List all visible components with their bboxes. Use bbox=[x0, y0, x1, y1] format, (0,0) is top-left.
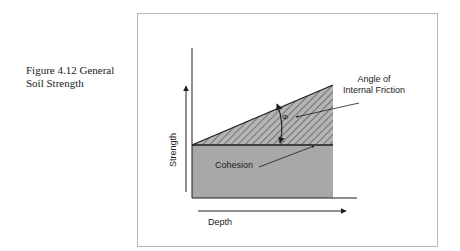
cohesion-label: Cohesion bbox=[215, 160, 253, 170]
friction-label-line-1: Angle of bbox=[357, 74, 391, 84]
friction-label-line-2: Internal Friction bbox=[343, 85, 405, 95]
cohesion-region bbox=[192, 145, 333, 198]
y-axis-label: Strength bbox=[168, 133, 178, 167]
soil-strength-diagram: Strength Depth Cohesion Angle of Interna… bbox=[0, 0, 460, 251]
phi-symbol: Φ bbox=[282, 113, 288, 122]
x-axis-label: Depth bbox=[208, 217, 232, 227]
